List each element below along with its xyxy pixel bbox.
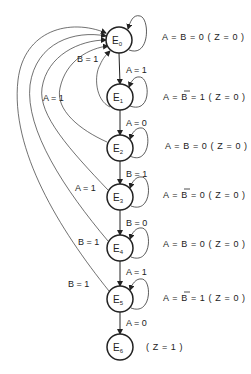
edge-label-e1-e2: A = 0 (126, 118, 147, 128)
output-e1: A = B = 1 ( Z = 0 ) (163, 91, 246, 102)
svg-text:A = B = 0 ( Z = 0 ): A = B = 0 ( Z = 0 ) (163, 190, 246, 200)
self-loops (128, 16, 148, 309)
state-e3: E3 (107, 184, 133, 210)
svg-text:A = B = 0 ( Z = 0 ): A = B = 0 ( Z = 0 ) (163, 239, 246, 249)
return-label-e5-e0: B = 1 (68, 279, 89, 289)
return-transitions (17, 27, 110, 291)
output-e6: ( Z = 1 ) (146, 342, 183, 352)
state-e2: E2 (107, 135, 133, 161)
output-e5: A = B = 1 ( Z = 0 ) (163, 292, 246, 303)
return-arc-e4-e0 (30, 35, 108, 241)
edge-label-e0-e1: A = 1 (126, 65, 147, 75)
output-e2: A = B = 0 ( Z = 0 ) (165, 141, 248, 151)
return-label-e3-e0: A = 1 (75, 183, 96, 193)
output-e4: A = B = 0 ( Z = 0 ) (163, 239, 246, 249)
state-e6: E6 (107, 334, 133, 360)
svg-text:A = B = 1 ( Z = 0 ): A = B = 1 ( Z = 0 ) (163, 92, 246, 102)
edge-label-e5-e6: A = 0 (126, 318, 147, 328)
svg-text:( Z = 1 ): ( Z = 1 ) (146, 342, 183, 352)
output-e3: A = B = 0 ( Z = 0 ) (163, 189, 246, 200)
svg-text:A = B = 1 ( Z = 0 ): A = B = 1 ( Z = 0 ) (163, 293, 246, 303)
svg-text:A = B = 0 ( Z = 0 ): A = B = 0 ( Z = 0 ) (162, 32, 245, 42)
svg-text:A = B = 0 ( Z = 0 ): A = B = 0 ( Z = 0 ) (165, 141, 248, 151)
edge-label-e3-e4: B = 0 (126, 218, 147, 228)
edge-label-e4-e5: A = 1 (126, 267, 147, 277)
state-e1: E1 (107, 84, 133, 110)
return-label-e2-e0: A = 1 (43, 93, 64, 103)
state-e0: E0 (106, 27, 132, 53)
return-label-e4-e0: B = 1 (78, 237, 99, 247)
edge-label-e2-e3: B = 1 (126, 169, 147, 179)
return-arc-e5-e0 (17, 27, 109, 291)
state-diagram: E0 E1 E2 E3 E4 E5 E6 A = 1 A = 0 B = 1 B… (0, 0, 251, 374)
state-e4: E4 (107, 235, 133, 261)
return-label-e1-e0: B = 1 (77, 54, 98, 64)
output-e0: A = B = 0 ( Z = 0 ) (162, 32, 245, 42)
edge-e0-e1 (119, 53, 120, 84)
state-e5: E5 (107, 286, 133, 312)
